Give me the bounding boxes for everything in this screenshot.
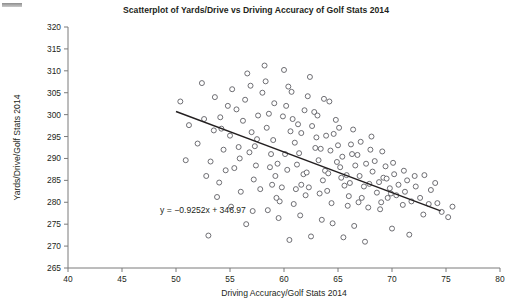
data-point [244, 222, 249, 227]
x-tick-label: 40 [63, 274, 73, 284]
data-point [334, 159, 339, 164]
data-point [401, 168, 406, 173]
y-tick-label: 310 [47, 66, 61, 76]
data-point [186, 123, 191, 128]
y-tick-label: 270 [47, 241, 61, 251]
data-point [237, 156, 242, 161]
data-point [336, 143, 341, 148]
data-point [290, 117, 295, 122]
x-tick-label: 50 [171, 274, 181, 284]
data-point [348, 142, 353, 147]
data-point [302, 108, 307, 113]
data-point [270, 182, 275, 187]
x-tick-label: 80 [495, 274, 505, 284]
data-point [243, 97, 248, 102]
data-point [313, 145, 318, 150]
data-point [315, 113, 320, 118]
y-tick-label: 320 [47, 22, 61, 32]
data-point [363, 239, 368, 244]
data-point [195, 141, 200, 146]
data-point [355, 152, 360, 157]
data-point [218, 115, 223, 120]
x-tick-label: 75 [441, 274, 451, 284]
data-point [309, 234, 314, 239]
scatterplot-canvas: 265270275280285290295300305310315320 404… [0, 0, 512, 307]
data-point [247, 150, 252, 155]
data-point [328, 148, 333, 153]
data-point [358, 139, 363, 144]
x-tick-label: 55 [225, 274, 235, 284]
data-point [319, 217, 324, 222]
x-tick-label: 60 [279, 274, 289, 284]
x-axis-title: Driving Accuracy/Golf Stats 2014 [221, 288, 347, 298]
data-point [296, 122, 301, 127]
data-point [279, 185, 284, 190]
data-point [273, 173, 278, 178]
y-tick-label: 300 [47, 110, 61, 120]
data-point [306, 185, 311, 190]
data-point [303, 193, 308, 198]
y-tick-label: 305 [47, 88, 61, 98]
data-point [324, 133, 329, 138]
data-point [357, 173, 362, 178]
data-point [206, 233, 211, 238]
data-point [230, 87, 235, 92]
data-point [421, 212, 426, 217]
data-point [263, 79, 268, 84]
data-point [291, 202, 296, 207]
data-point [316, 158, 321, 163]
data-point [310, 124, 315, 129]
data-point [293, 187, 298, 192]
data-point [330, 221, 335, 226]
y-tick-label: 280 [47, 197, 61, 207]
data-point [407, 232, 412, 237]
data-point [288, 129, 293, 134]
data-point [422, 173, 427, 178]
data-point [269, 152, 274, 157]
data-point [232, 166, 237, 171]
data-point [286, 84, 291, 89]
y-tick-label: 290 [47, 153, 61, 163]
data-point [387, 186, 392, 191]
data-point [435, 201, 440, 206]
data-point [378, 207, 383, 212]
data-point [289, 89, 294, 94]
y-tick-label: 265 [47, 263, 61, 273]
data-point [245, 71, 250, 76]
data-point [234, 107, 239, 112]
data-point [385, 195, 390, 200]
scatterplot-figure: 265270275280285290295300305310315320 404… [0, 0, 512, 307]
data-point [327, 99, 332, 104]
regression-equation: y = −0.9252x + 346.97 [160, 205, 246, 215]
data-point [350, 152, 355, 157]
data-point [249, 130, 254, 135]
data-point [285, 167, 290, 172]
data-point [267, 165, 272, 170]
data-point [250, 209, 255, 214]
data-point [341, 235, 346, 240]
data-point [275, 161, 280, 166]
data-point [252, 144, 257, 149]
chart-root: Scatterplot of Yards/Drive vs Driving Ac… [0, 0, 512, 307]
data-point [276, 216, 281, 221]
y-axis-title: Yards/Drive/Golf Stats 2014 [12, 94, 22, 200]
data-point [256, 113, 261, 118]
data-point [380, 149, 385, 154]
data-point [364, 161, 369, 166]
data-point [240, 118, 245, 123]
data-point [251, 177, 256, 182]
y-tick-label: 285 [47, 175, 61, 185]
data-point [418, 195, 423, 200]
data-point [266, 111, 271, 116]
data-point [372, 159, 377, 164]
data-point [392, 172, 397, 177]
data-point [236, 145, 241, 150]
data-point [352, 223, 357, 228]
data-point [412, 173, 417, 178]
data-point [212, 95, 217, 100]
data-point [366, 205, 371, 210]
data-point [413, 184, 418, 189]
data-point [396, 182, 401, 187]
data-point [265, 208, 270, 213]
data-point [391, 160, 396, 165]
